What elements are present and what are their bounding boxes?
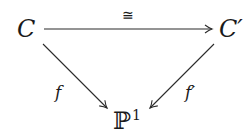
projective-line-exponent: 1 [132,107,141,123]
node-p1: ℙ1 [113,108,141,133]
projective-line-symbol: ℙ [113,107,131,135]
f-prime-label: f′ [185,84,195,101]
f-arrow [43,44,107,108]
iso-label: ≅ [122,8,134,22]
node-c: C [17,17,35,41]
node-c-prime: C′ [219,17,243,41]
f-label: f [55,84,61,101]
commutative-diagram: C C′ ≅ f f′ ℙ1 [0,0,252,137]
f-prime-arrow [150,44,214,108]
